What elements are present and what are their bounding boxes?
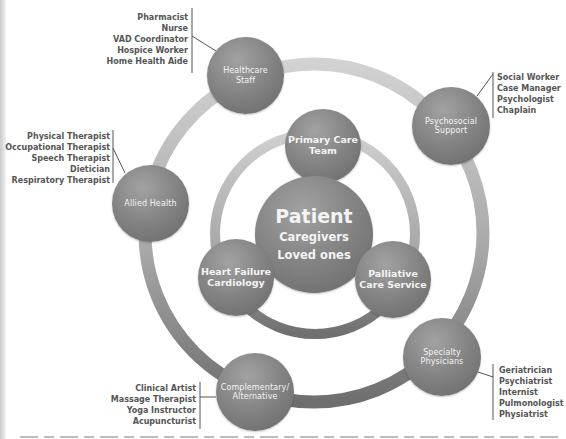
role-item: Physiatrist [499, 409, 564, 420]
node-healthcare-staff: Healthcare Staff [207, 37, 284, 114]
role-item: Case Manager [497, 83, 561, 94]
node-primary-care-team: Primary Care Team [285, 109, 361, 183]
role-item: Chaplain [497, 105, 561, 116]
role-item: Pulmonologist [499, 398, 564, 409]
role-item: VAD Coordinator [107, 34, 188, 45]
role-item: Occupational Therapist [5, 142, 110, 153]
patient-subtitle-line: Caregivers [279, 228, 349, 246]
patient-title: Patient [275, 205, 352, 228]
node-specialty-physicians: Specialty Physicians [403, 318, 481, 396]
node-label-line: Psychosocial [425, 117, 477, 126]
role-item: Acupuncturist [111, 416, 196, 427]
healthcare-connector [192, 36, 216, 51]
role-item: Massage Therapist [111, 394, 196, 405]
roles-psychosocial-support: Social Worker Case Manager Psychologist … [497, 72, 561, 116]
role-item: Hospice Worker [107, 45, 188, 56]
caption-text-fragment [20, 436, 560, 438]
node-label-line: Complementary/ [221, 383, 289, 392]
node-label-line: Team [309, 146, 337, 157]
roles-allied-health: Physical Therapist Occupational Therapis… [5, 131, 110, 186]
node-heart-failure-cardiology: Heart Failure Cardiology [198, 239, 274, 316]
psychosocial-connector [477, 74, 493, 96]
role-item: Respiratory Therapist [5, 175, 110, 186]
node-label-line: Cardiology [207, 278, 264, 289]
node-label-line: Alternative [233, 392, 278, 401]
node-label-line: Staff [236, 76, 255, 85]
role-item: Psychiatrist [499, 376, 564, 387]
roles-healthcare-staff: Pharmacist Nurse VAD Coordinator Hospice… [107, 12, 188, 67]
role-item: Speech Therapist [5, 153, 110, 164]
role-item: Yoga Instructor [111, 405, 196, 416]
role-item: Nurse [107, 23, 188, 34]
role-item: Geriatrician [499, 365, 564, 376]
roles-specialty-physicians: Geriatrician Psychiatrist Internist Pulm… [499, 365, 564, 420]
node-label-line: Specialty [423, 348, 461, 357]
node-label-line: Healthcare [223, 66, 268, 75]
node-palliative-care-service: Palliative Care Service [355, 241, 431, 318]
node-label-line: Physicians [421, 357, 464, 366]
patient-subtitle-line: Loved ones [277, 246, 351, 264]
role-item: Home Health Aide [107, 56, 188, 67]
node-label-line: Heart Failure [201, 267, 271, 278]
node-allied-health: Allied Health [112, 165, 189, 242]
node-label-line: Care Service [359, 280, 426, 291]
node-label-line: Palliative [368, 269, 418, 280]
cut-off-caption [20, 433, 560, 439]
specialty-connector [478, 372, 493, 377]
role-item: Clinical Artist [111, 383, 196, 394]
node-complementary-alternative: Complementary/ Alternative [216, 353, 294, 431]
role-item: Social Worker [497, 72, 561, 83]
role-item: Dietician [5, 164, 110, 175]
role-item: Internist [499, 387, 564, 398]
role-item: Physical Therapist [5, 131, 110, 142]
role-item: Psychologist [497, 94, 561, 105]
allied-connector [113, 148, 125, 173]
node-label-line: Support [435, 126, 467, 135]
role-item: Pharmacist [107, 12, 188, 23]
roles-complementary-alternative: Clinical Artist Massage Therapist Yoga I… [111, 383, 196, 427]
node-psychosocial-support: Psychosocial Support [412, 87, 490, 165]
node-label-line: Allied Health [124, 199, 176, 208]
